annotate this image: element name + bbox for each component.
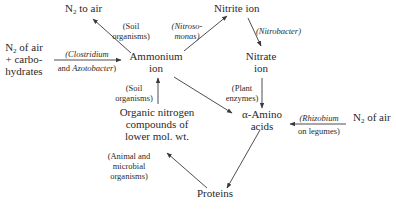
label-nitrosomonas: (Nitroso- monas) bbox=[170, 21, 204, 41]
amino-line2: acids bbox=[237, 120, 287, 132]
n2-rest: to air bbox=[76, 2, 102, 14]
nitrate-line1: Nitrate bbox=[239, 50, 283, 62]
nitrate-line2: ion bbox=[239, 62, 283, 74]
n2-main: N bbox=[65, 2, 73, 14]
organic-line1: Organic nitrogen bbox=[115, 106, 199, 118]
node-organic-nitrogen-compounds: Organic nitrogen compounds of lower mol.… bbox=[115, 106, 199, 142]
arrow-amino-to-proteins bbox=[227, 130, 260, 188]
clostridium-line1: (Clostridium bbox=[52, 47, 122, 61]
node-n2-to-air: N2 to air bbox=[65, 3, 102, 14]
n2-carbo-line3: hydrates bbox=[2, 65, 46, 77]
amino-line1: α-Amino bbox=[237, 108, 287, 120]
node-n2-of-air-right: N2 of air bbox=[353, 112, 391, 123]
organic-line2: compounds of bbox=[115, 118, 199, 130]
label-soil-organisms-lower: (Soil organisms) bbox=[110, 83, 158, 103]
label-plant-enzymes: (Plant enzymes) bbox=[222, 83, 262, 103]
nitrosomonas-line2: monas) bbox=[170, 31, 204, 41]
node-nitrate-ion: Nitrate ion bbox=[239, 50, 283, 74]
animal-microbial-line2: microbial bbox=[103, 161, 155, 171]
soil-lower-line2: organisms) bbox=[110, 93, 158, 103]
rhizobium-line1: (Rhizobium bbox=[292, 112, 346, 125]
n2-carbo-line2: + carbo- bbox=[2, 53, 46, 65]
and-text: and bbox=[58, 63, 72, 73]
soil-upper-line1: (Soil bbox=[104, 21, 158, 31]
label-animal-microbial-organisms: (Animal and microbial organisms) bbox=[103, 151, 155, 181]
n2-carbo-line1: N2 of air bbox=[2, 41, 46, 53]
label-rhizobium-legumes: (Rhizobium on legumes) bbox=[292, 112, 346, 138]
node-n2-air-carbohydrates: N2 of air + carbo- hydrates bbox=[2, 41, 46, 77]
label-nitrobacter: (Nitrobacter) bbox=[256, 27, 301, 36]
n2-main: N bbox=[353, 111, 361, 123]
soil-lower-line1: (Soil bbox=[110, 83, 158, 93]
ammonium-line1: Ammonium bbox=[126, 50, 186, 62]
organic-line3: lower mol. wt. bbox=[115, 130, 199, 142]
soil-upper-line2: organisms) bbox=[104, 31, 158, 41]
label-clostridium-azotobacter: (Clostridium and Azotobacter) bbox=[52, 47, 122, 75]
plant-enzymes-line2: enzymes) bbox=[222, 93, 262, 103]
node-proteins: Proteins bbox=[197, 188, 233, 199]
animal-microbial-line1: (Animal and bbox=[103, 151, 155, 161]
nitrosomonas-line1: (Nitroso- bbox=[170, 21, 204, 31]
arrow-proteins-to-organic bbox=[167, 153, 207, 188]
close-paren: ) bbox=[113, 63, 116, 73]
clostridium-line2: and Azotobacter) bbox=[52, 61, 122, 75]
animal-microbial-line3: organisms) bbox=[103, 171, 155, 181]
rhizobium-line2: on legumes) bbox=[292, 125, 346, 138]
ammonium-line2: ion bbox=[126, 62, 186, 74]
n2-rest: of air bbox=[17, 41, 43, 53]
plant-enzymes-line1: (Plant bbox=[222, 83, 262, 93]
node-alpha-amino-acids: α-Amino acids bbox=[237, 108, 287, 132]
node-ammonium-ion: Ammonium ion bbox=[126, 50, 186, 74]
azotobacter-text: Azotobacter bbox=[72, 63, 113, 73]
label-soil-organisms-upper: (Soil organisms) bbox=[104, 21, 158, 41]
node-nitrite-ion: Nitrite ion bbox=[214, 3, 260, 14]
n2-main: N bbox=[5, 41, 13, 53]
n2-rest: of air bbox=[364, 111, 390, 123]
